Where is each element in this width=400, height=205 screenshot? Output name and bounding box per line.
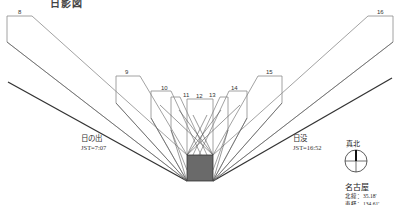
sunset-label: 日没 <box>293 135 322 144</box>
shadow-outline-8 <box>7 16 187 181</box>
shadow-diagram <box>0 0 400 205</box>
hour-label-11: 11 <box>183 92 189 98</box>
north-label: 真北 <box>346 138 360 148</box>
north-compass-icon <box>345 150 367 172</box>
sunset-time: JST=16:52 <box>293 144 322 151</box>
sunrise-line <box>8 82 187 181</box>
sunset-line <box>213 78 392 181</box>
hour-label-9: 9 <box>125 69 128 75</box>
hour-label-15: 15 <box>266 69 273 75</box>
sunrise-info: 日の出 JST=7:07 <box>81 135 106 151</box>
hour-label-8: 8 <box>18 9 21 15</box>
hour-label-10: 10 <box>161 85 168 91</box>
hour-label-16: 16 <box>377 9 384 15</box>
hour-label-12: 12 <box>196 93 203 99</box>
location-name: 名古屋 <box>345 181 379 192</box>
sunrise-time: JST=7:07 <box>81 144 106 151</box>
hour-label-14: 14 <box>231 85 238 91</box>
hour-label-13: 13 <box>209 92 216 98</box>
sunset-info: 日没 JST=16:52 <box>293 135 322 151</box>
building <box>187 155 213 181</box>
location-latitude: 北緯：35.18' <box>345 192 379 200</box>
sunrise-label: 日の出 <box>81 135 106 144</box>
location-longitude: 東経：134.61' <box>345 200 379 205</box>
shadow-outline-15 <box>213 76 282 181</box>
location-info: 名古屋 北緯：35.18' 東経：134.61' <box>345 181 379 205</box>
shadow-outline-9 <box>116 76 187 181</box>
